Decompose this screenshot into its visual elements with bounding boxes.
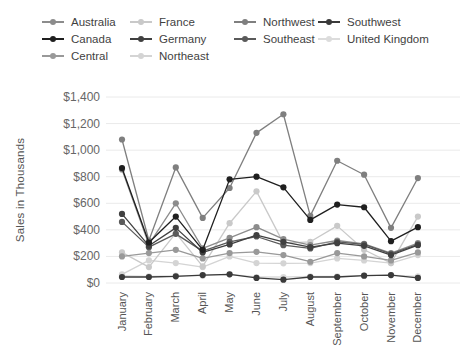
x-tick-label: May — [223, 292, 235, 313]
y-tick-label: $600 — [73, 196, 100, 210]
x-tick-label: October — [358, 292, 370, 331]
data-point-france — [415, 213, 421, 219]
data-point-france — [227, 220, 233, 226]
y-tick-label: $200 — [73, 249, 100, 263]
data-point-southeast — [173, 231, 179, 237]
y-tick-label: $0 — [87, 276, 101, 290]
x-tick-label: December — [411, 292, 423, 343]
data-point-central — [200, 255, 206, 261]
data-point-canada — [173, 213, 179, 219]
data-point-canada — [253, 174, 259, 180]
x-tick-label: September — [331, 292, 343, 346]
data-point-central — [415, 249, 421, 255]
data-point-france — [200, 263, 206, 269]
x-tick-label: June — [250, 292, 262, 316]
y-tick-label: $400 — [73, 223, 100, 237]
data-point-southwest — [361, 273, 367, 279]
data-point-germany — [119, 211, 125, 217]
data-point-central — [253, 249, 259, 255]
data-point-southeast — [119, 219, 125, 225]
series-line-central — [122, 250, 418, 262]
data-point-central — [307, 259, 313, 265]
data-point-northwest — [334, 158, 340, 164]
data-point-southwest — [253, 275, 259, 281]
data-point-canada — [361, 204, 367, 210]
line-chart: $0$200$400$600$800$1,000$1,200$1,400Janu… — [0, 0, 464, 358]
data-point-canada — [280, 184, 286, 190]
data-point-canada — [200, 247, 206, 253]
data-point-northwest — [388, 225, 394, 231]
data-point-australia — [173, 200, 179, 206]
y-tick-label: $1,000 — [63, 143, 100, 157]
y-tick-label: $1,200 — [63, 117, 100, 131]
data-point-southwest — [119, 274, 125, 280]
data-point-southwest — [173, 273, 179, 279]
data-point-northeast — [146, 257, 152, 263]
data-point-france — [146, 264, 152, 270]
data-point-northwest — [173, 164, 179, 170]
y-tick-label: $800 — [73, 170, 100, 184]
data-point-southwest — [415, 275, 421, 281]
x-tick-label: February — [142, 292, 154, 337]
data-point-central — [173, 247, 179, 253]
data-point-northwest — [253, 130, 259, 136]
data-point-canada — [388, 238, 394, 244]
data-point-germany — [280, 239, 286, 245]
series-line-canada — [122, 168, 418, 250]
x-tick-label: November — [385, 292, 397, 343]
data-point-germany — [173, 225, 179, 231]
data-point-southwest — [388, 272, 394, 278]
data-point-northeast — [173, 260, 179, 266]
data-point-northwest — [361, 172, 367, 178]
data-point-germany — [361, 243, 367, 249]
data-point-northeast — [280, 260, 286, 266]
series-line-northwest — [122, 114, 418, 240]
data-point-canada — [227, 176, 233, 182]
x-tick-label: January — [116, 292, 128, 332]
data-point-northeast — [253, 260, 259, 266]
data-point-canada — [334, 202, 340, 208]
data-point-france — [334, 223, 340, 229]
data-point-germany — [334, 240, 340, 246]
data-point-northeast — [334, 255, 340, 261]
data-point-northwest — [415, 175, 421, 181]
data-point-central — [388, 257, 394, 263]
data-point-central — [280, 252, 286, 258]
y-tick-label: $1,400 — [63, 90, 100, 104]
x-tick-label: March — [169, 292, 181, 323]
data-point-southwest — [280, 277, 286, 283]
data-point-southwest — [146, 274, 152, 280]
data-point-northwest — [280, 111, 286, 117]
data-point-france — [253, 188, 259, 194]
data-point-northwest — [119, 136, 125, 142]
data-point-canada — [307, 217, 313, 223]
x-tick-label: August — [304, 292, 316, 326]
data-point-central — [119, 253, 125, 259]
series-line-france — [122, 191, 418, 267]
data-point-central — [146, 250, 152, 256]
x-tick-label: July — [277, 292, 289, 312]
data-point-australia — [253, 224, 259, 230]
chart-figure: AustraliaFranceNorthwestSouthwestCanadaG… — [0, 0, 464, 358]
data-point-germany — [307, 244, 313, 250]
x-tick-label: April — [196, 292, 208, 314]
data-point-germany — [415, 242, 421, 248]
data-point-northwest — [200, 215, 206, 221]
data-point-southwest — [227, 271, 233, 277]
data-point-central — [334, 250, 340, 256]
data-point-central — [227, 250, 233, 256]
data-point-canada — [119, 165, 125, 171]
data-point-central — [361, 253, 367, 259]
data-point-germany — [388, 252, 394, 258]
data-point-southwest — [200, 272, 206, 278]
data-point-germany — [253, 232, 259, 238]
data-point-southwest — [334, 274, 340, 280]
data-point-germany — [227, 241, 233, 247]
data-point-canada — [146, 239, 152, 245]
data-point-southwest — [307, 274, 313, 280]
data-point-canada — [415, 224, 421, 230]
